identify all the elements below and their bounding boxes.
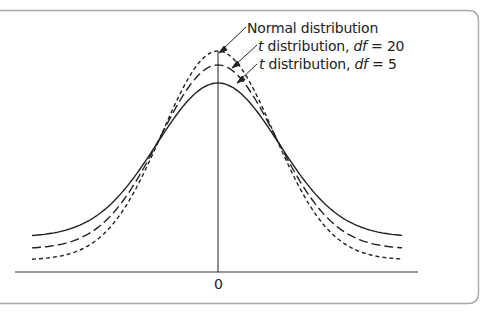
t5-df-symbol: df [354,56,367,72]
t20-df-symbol: df [353,38,366,54]
t20-value: = 20 [367,38,404,54]
legend-normal-label: Normal distribution [247,20,378,36]
frame-border [0,11,479,304]
x-tick-zero: 0 [214,276,223,292]
diagram-canvas [0,0,491,313]
t5-mid-text: distribution, [264,56,354,72]
normal-curve [32,51,402,259]
normal-label-text: Normal distribution [247,20,378,36]
t-df5-curve [32,83,402,236]
legend-t20-label: t distribution, df = 20 [258,38,404,54]
t20-mid-text: distribution, [263,38,353,54]
t5-value: = 5 [368,56,397,72]
legend-t5-label: t distribution, df = 5 [259,56,397,72]
